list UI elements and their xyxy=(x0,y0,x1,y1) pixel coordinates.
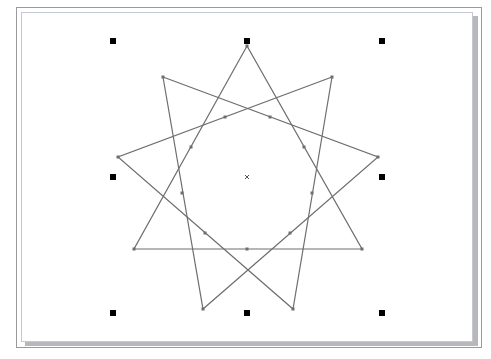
inner-node[interactable] xyxy=(246,248,249,251)
inner-node[interactable] xyxy=(190,146,193,149)
inner-node[interactable] xyxy=(289,232,292,235)
vertex-node[interactable] xyxy=(117,156,120,159)
resize-handle-top-center[interactable] xyxy=(244,38,250,44)
drawing-canvas[interactable] xyxy=(0,0,491,359)
vertex-node[interactable] xyxy=(331,76,334,79)
inner-node[interactable] xyxy=(311,192,314,195)
resize-handle-top-left[interactable] xyxy=(110,38,116,44)
star-triangle-1[interactable] xyxy=(134,46,362,249)
vertex-node[interactable] xyxy=(246,45,249,48)
resize-handle-top-right[interactable] xyxy=(379,38,385,44)
inner-node[interactable] xyxy=(303,146,306,149)
inner-node[interactable] xyxy=(181,192,184,195)
vertex-node[interactable] xyxy=(361,248,364,251)
inner-node[interactable] xyxy=(224,116,227,119)
vertex-node[interactable] xyxy=(202,308,205,311)
star-triangle-3[interactable] xyxy=(118,77,332,309)
resize-handle-middle-left[interactable] xyxy=(110,174,116,180)
resize-handle-bottom-right[interactable] xyxy=(379,310,385,316)
center-marker-icon[interactable] xyxy=(245,175,249,179)
vertex-node[interactable] xyxy=(292,308,295,311)
vertex-node[interactable] xyxy=(377,156,380,159)
star-triangle-2[interactable] xyxy=(163,77,378,309)
resize-handle-middle-right[interactable] xyxy=(379,174,385,180)
vertex-node[interactable] xyxy=(162,76,165,79)
resize-handle-bottom-center[interactable] xyxy=(244,310,250,316)
inner-node[interactable] xyxy=(269,116,272,119)
resize-handle-bottom-left[interactable] xyxy=(110,310,116,316)
vertex-node[interactable] xyxy=(133,248,136,251)
inner-node[interactable] xyxy=(204,232,207,235)
